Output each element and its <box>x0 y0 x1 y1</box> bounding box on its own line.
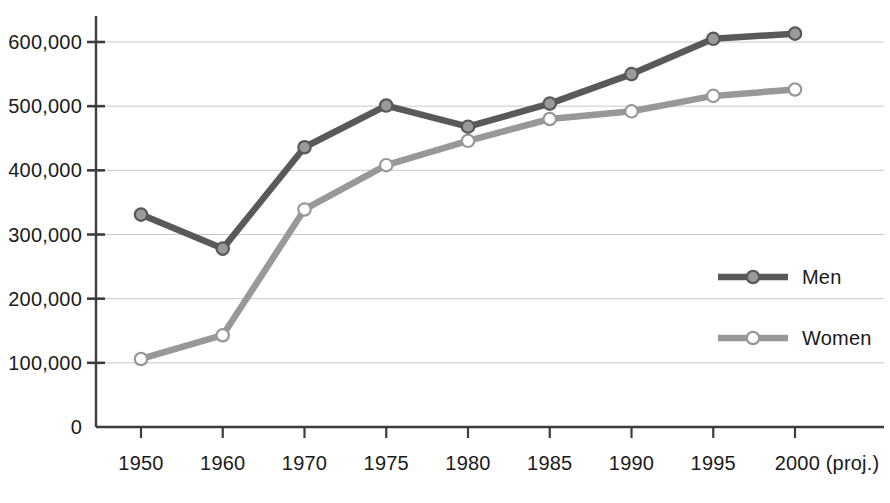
data-point-marker <box>707 33 719 45</box>
legend-swatches <box>718 271 788 344</box>
y-axis-label: 200,000 <box>8 287 82 310</box>
data-point-marker <box>789 27 801 39</box>
legend-marker-men <box>747 271 759 283</box>
data-point-marker <box>544 113 556 125</box>
data-point-marker <box>544 97 556 109</box>
axes-group <box>96 16 884 427</box>
y-axis-label: 300,000 <box>8 223 82 246</box>
data-point-marker <box>135 208 147 220</box>
legend-marker-women <box>747 332 759 344</box>
x-axis-label: 1980 <box>445 452 490 475</box>
data-point-marker <box>135 353 147 365</box>
x-tick-marks-group <box>141 427 795 438</box>
chart-canvas <box>0 0 890 503</box>
x-axis-label: 1990 <box>609 452 654 475</box>
x-axis-label: 1995 <box>691 452 736 475</box>
data-point-marker <box>462 121 474 133</box>
data-point-marker <box>380 99 392 111</box>
x-axis-label: 1960 <box>200 452 245 475</box>
x-axis-label: 2000 (proj.) <box>775 452 880 475</box>
y-axis-label: 100,000 <box>8 351 82 374</box>
y-axis-label: 400,000 <box>8 159 82 182</box>
data-point-marker <box>789 83 801 95</box>
y-axis-label: 600,000 <box>8 31 82 54</box>
x-axis-label: 1975 <box>364 452 409 475</box>
legend-label-men: Men <box>802 266 842 289</box>
line-chart: 0100,000200,000300,000400,000500,000600,… <box>0 0 890 503</box>
data-point-marker <box>625 68 637 80</box>
data-point-marker <box>707 90 719 102</box>
x-axis-label: 1985 <box>527 452 572 475</box>
data-point-marker <box>217 329 229 341</box>
data-point-marker <box>217 242 229 254</box>
x-axis-label: 1970 <box>282 452 327 475</box>
data-point-marker <box>380 159 392 171</box>
data-point-marker <box>298 141 310 153</box>
data-point-marker <box>298 203 310 215</box>
legend-label-women: Women <box>802 327 872 350</box>
x-axis-label: 1950 <box>118 452 163 475</box>
y-axis-label: 500,000 <box>8 95 82 118</box>
data-point-marker <box>462 135 474 147</box>
data-point-marker <box>625 105 637 117</box>
y-axis-label: 0 <box>71 416 82 439</box>
